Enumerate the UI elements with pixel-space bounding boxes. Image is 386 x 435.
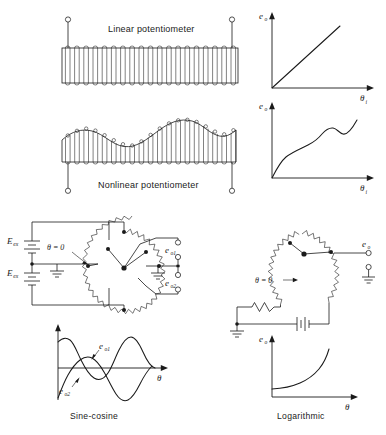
nonlinear-winding-top-loops: [66, 118, 235, 147]
nonlinear-right-terminal: [229, 162, 234, 193]
svg-text:o1: o1: [170, 250, 176, 256]
logarithmic-response-trace: [272, 349, 329, 389]
svg-text:e: e: [59, 386, 63, 396]
sine-cosine-angle-marker: θ = 0: [47, 243, 64, 252]
svg-text:e: e: [259, 101, 263, 111]
sine-cosine-output1-label: e o1: [165, 245, 176, 256]
svg-text:o: o: [265, 339, 268, 345]
linear-right-terminal: [229, 17, 234, 48]
logarithmic-graph-xlabel: θ: [345, 402, 350, 412]
sine-cosine-ground-left: [50, 264, 64, 277]
logarithmic-wiper: [288, 241, 333, 257]
sine-cosine-circuit: θ = 0 E ex E ex e o1 e o2: [6, 216, 181, 314]
logarithmic-ground-right: [362, 270, 375, 283]
linear-left-terminal: [65, 17, 70, 48]
logarithmic-circuit: θ = 0 e o: [230, 231, 375, 338]
logarithmic-graph-ylabel: e o: [259, 334, 268, 345]
sine-cosine-trace-eo1: [58, 337, 155, 379]
logarithmic-battery: [292, 317, 316, 331]
sine-cosine-caption: Sine-cosine: [70, 411, 118, 421]
excitation-label-top: E ex: [6, 236, 19, 247]
logarithmic-output-label: e o: [362, 239, 370, 250]
logarithmic-caption: Logarithmic: [277, 411, 325, 421]
svg-text:o2: o2: [170, 283, 176, 289]
logarithmic-ground-left: [230, 324, 244, 337]
svg-text:θ: θ: [360, 183, 365, 193]
svg-text:o: o: [367, 244, 370, 250]
svg-text:ex: ex: [13, 241, 18, 247]
svg-text:o: o: [265, 16, 268, 22]
sine-cosine-graph-eo2-label: e o2: [59, 377, 80, 397]
linear-graph-ylabel: e o: [259, 11, 268, 22]
svg-text:e: e: [259, 11, 263, 21]
logarithmic-winding-ring: [268, 231, 339, 305]
svg-text:e: e: [165, 278, 169, 288]
svg-text:E: E: [6, 236, 13, 246]
logarithmic-angle-marker: θ = 0: [255, 276, 272, 285]
linear-potentiometer-diagram: Linear potentiometer: [62, 17, 238, 85]
nonlinear-response-trace: [272, 120, 357, 178]
linear-potentiometer-label: Linear potentiometer: [108, 24, 195, 34]
sine-cosine-wiper: [106, 244, 148, 271]
sine-cosine-graph-eo1-label: e o1: [91, 341, 110, 360]
svg-text:i: i: [365, 189, 367, 195]
excitation-source-top: [24, 238, 40, 264]
svg-text:o1: o1: [104, 346, 110, 352]
svg-text:e: e: [259, 334, 263, 344]
svg-text:e: e: [99, 341, 103, 351]
nonlinear-winding-turns: [66, 121, 236, 163]
nonlinear-response-graph: e o θ i: [259, 101, 374, 195]
linear-response-graph: e o θ i: [259, 11, 374, 105]
svg-text:i: i: [365, 99, 367, 105]
potentiometer-figure: Linear potentiometer e o θ i: [0, 0, 386, 435]
svg-text:o2: o2: [64, 391, 70, 397]
sine-cosine-output2-label: e o2: [165, 278, 176, 289]
svg-text:θ: θ: [360, 93, 365, 103]
svg-text:e: e: [165, 245, 169, 255]
excitation-label-bottom: E ex: [6, 268, 19, 279]
sine-cosine-response-graph: e o1 e o2 θ Sine-cosine: [55, 324, 168, 421]
sine-cosine-graph-xlabel: θ: [157, 373, 162, 383]
linear-graph-xlabel: θ i: [360, 93, 367, 105]
sine-cosine-trace-eo2: [58, 357, 152, 401]
nonlinear-graph-ylabel: e o: [259, 101, 268, 112]
linear-response-trace: [272, 26, 340, 88]
excitation-source-bottom: [24, 264, 40, 288]
nonlinear-graph-xlabel: θ i: [360, 183, 367, 195]
nonlinear-left-terminal: [65, 162, 70, 193]
svg-text:ex: ex: [13, 273, 18, 279]
linear-winding-turns: [65, 48, 235, 83]
svg-text:E: E: [6, 268, 13, 278]
svg-text:e: e: [362, 239, 366, 249]
nonlinear-potentiometer-diagram: Nonlinear potentiometer: [62, 118, 236, 193]
svg-text:o: o: [265, 106, 268, 112]
nonlinear-potentiometer-label: Nonlinear potentiometer: [98, 180, 199, 190]
logarithmic-response-graph: e o θ Logarithmic: [259, 334, 358, 421]
